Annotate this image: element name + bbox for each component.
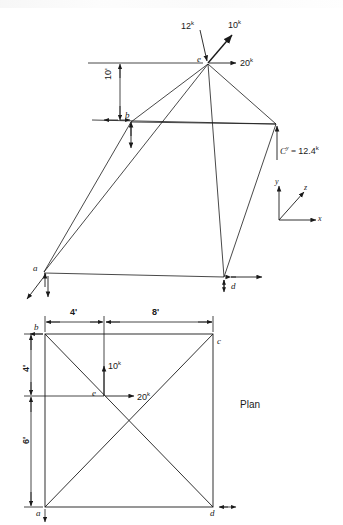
member-a-d — [44, 273, 224, 277]
elevation-view — [44, 63, 276, 277]
axis-z — [279, 192, 304, 220]
member-b-a — [44, 122, 131, 272]
plan-caption: Plan — [240, 400, 260, 410]
elevation-node-label-d: d — [231, 282, 236, 291]
plan-node-label-e: e — [92, 389, 96, 398]
load-12k-value: 12 — [181, 21, 191, 31]
plan-load-10k-unit: k — [118, 359, 121, 366]
plan-node-label-c: c — [217, 337, 221, 346]
member-e-a — [44, 64, 208, 272]
axis-label-x: x — [318, 215, 322, 223]
load-label-10k: 10k — [228, 19, 241, 30]
elevation-node-label-e: e — [197, 55, 201, 64]
plan-load-20k-value: 20 — [137, 392, 147, 402]
plan-load-label-20k: 20k — [137, 391, 150, 402]
load-label-12k: 12k — [181, 20, 194, 31]
reaction-value: 12.4 — [298, 146, 316, 156]
plan-node-label-b: b — [34, 323, 39, 332]
member-e-c — [208, 64, 276, 124]
plan-dimension-label-4ft-v: 4' — [22, 365, 31, 372]
plan-load-10k-value: 10 — [108, 361, 118, 371]
plan-node-label-a: a — [36, 509, 41, 518]
load-20k-unit: k — [250, 56, 253, 63]
arrow-10k — [208, 35, 232, 63]
load-20k-value: 20 — [240, 58, 250, 68]
elevation-node-label-b: b — [125, 111, 130, 120]
plan-node-label-d: d — [210, 509, 215, 518]
elevation-loads — [200, 30, 236, 63]
plan-view — [45, 334, 213, 507]
figure-linework — [0, 0, 343, 525]
reaction-label-cy: Cy = 12.4k — [280, 145, 319, 156]
elevation-reactions — [27, 122, 277, 299]
dimension-label-10ft: 10' — [104, 68, 113, 80]
elevation-node-label-a: a — [33, 264, 38, 273]
plan-dimensions-horizontal — [45, 316, 213, 396]
load-10k-value: 10 — [228, 20, 238, 30]
axis-label-y: y — [275, 178, 279, 186]
axis-label-z: z — [304, 184, 307, 192]
load-label-20k: 20k — [240, 57, 253, 68]
coordinate-triad-lines — [279, 186, 316, 220]
load-10k-unit: k — [238, 18, 241, 25]
reaction-arrow-a-diag — [27, 274, 46, 299]
arrow-12k — [200, 30, 207, 61]
load-12k-unit: k — [191, 19, 194, 26]
structural-frame-figure: e b a d 12k 10k 20k Cy = 12.4k 10' y z x… — [0, 0, 343, 525]
reaction-unit: k — [316, 144, 319, 151]
plan-load-20k-unit: k — [147, 390, 150, 397]
plan-dimensions-vertical — [24, 334, 236, 522]
plan-dimension-label-4ft-h: 4' — [70, 308, 77, 317]
plan-dimension-label-6ft-v: 6' — [22, 437, 31, 444]
member-e-d — [208, 64, 224, 277]
plan-dimension-label-8ft-h: 8' — [152, 308, 159, 317]
reaction-equals: = — [291, 146, 296, 156]
member-c-d — [224, 124, 276, 277]
reaction-subscript: y — [286, 145, 289, 151]
plan-load-label-10k: 10k — [108, 360, 121, 371]
